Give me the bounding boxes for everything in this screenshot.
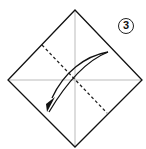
step-number-badge: 3: [118, 18, 134, 34]
